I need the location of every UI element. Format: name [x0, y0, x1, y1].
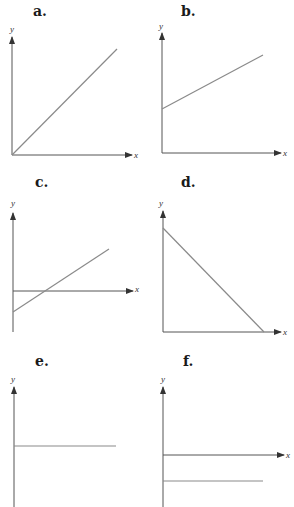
- panel-d-line: [163, 228, 264, 332]
- panel-b-line: [162, 55, 263, 109]
- panel-d-graph: [163, 211, 281, 332]
- panel-f-graph: [163, 387, 284, 507]
- panel-c-line: [13, 249, 109, 312]
- panel-a-line: [12, 49, 117, 155]
- panel-c-graph: [13, 213, 133, 332]
- panel-a-graph: [12, 37, 132, 155]
- panel-b-graph: [162, 33, 281, 153]
- graphs-canvas: [0, 0, 294, 507]
- panel-e-graph: [14, 387, 116, 507]
